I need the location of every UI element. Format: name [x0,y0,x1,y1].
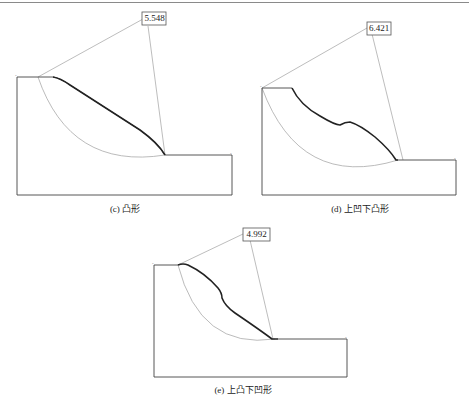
caption-c: (c) 凸形 [110,202,140,215]
radius-line-left [38,19,143,77]
caption-e: (e) 上凸下凹形 [214,383,271,396]
slope-boundary-right [262,160,456,195]
slip-surface-arc [262,88,398,167]
fs-label-d: 6.421 [367,22,391,35]
slip-surface-arc [178,265,275,340]
slope-surface [178,264,278,339]
radius-line-right [372,34,403,160]
caption-d: (d) 上凹下凸形 [331,202,389,215]
fs-label-e: 4.992 [243,228,270,241]
radius-line-left [178,234,243,265]
slope-boundary [17,77,232,195]
slope-boundary-left [154,265,178,377]
slope-boundary-right [154,339,347,377]
radius-line-right [250,240,273,339]
figure-c: ˇ ˇ [15,12,232,195]
slope-surface [292,88,398,160]
figure-d: ˇ ˇ [260,22,456,195]
slip-surface-arc [38,77,165,157]
slope-surface [53,77,165,155]
radius-line-left [262,28,367,88]
slope-boundary-left [262,88,292,195]
figure-e: ˇ ˇ [152,228,347,377]
fs-label-c: 5.548 [143,12,166,25]
radius-line-right [148,26,165,155]
slope-diagrams: ˇ ˇ ˇ ˇ ˇ ˇ [0,0,469,401]
